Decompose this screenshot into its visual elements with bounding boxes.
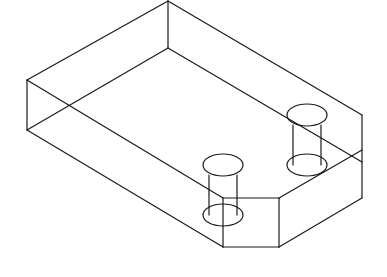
- block-edge: [27, 1, 168, 80]
- block-edge: [168, 1, 362, 115]
- wireframe-block-drawing: [0, 0, 387, 277]
- block-edge: [27, 130, 223, 247]
- block-edge: [279, 198, 362, 247]
- right-hole: [287, 104, 327, 176]
- hole-top-ellipse: [287, 104, 327, 126]
- block-edge: [27, 80, 223, 198]
- hole-top-ellipse: [203, 154, 243, 176]
- cylindrical-holes: [203, 104, 327, 226]
- block-edge: [27, 48, 168, 130]
- block-edge: [168, 48, 362, 162]
- block-edges: [27, 1, 362, 247]
